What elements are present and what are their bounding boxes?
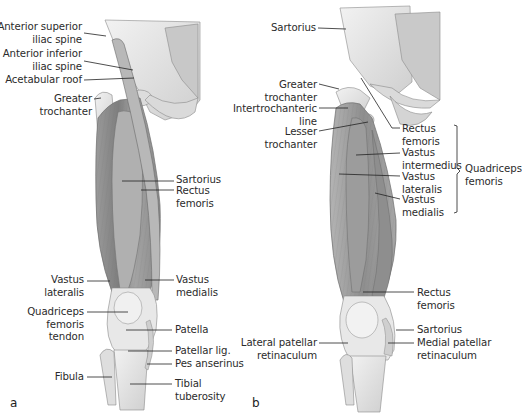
label-quadriceps-femoris-group: Quadriceps femoris — [465, 163, 522, 188]
label-lesser-trochanter: Lesser trochanter — [265, 126, 317, 151]
label-sartorius-b-bottom: Sartorius — [417, 324, 462, 337]
label-acetabular-roof: Acetabular roof — [5, 74, 82, 87]
label-sartorius-b-top: Sartorius — [271, 22, 316, 35]
label-quadriceps-femoris-tendon: Quadriceps femoris tendon — [27, 306, 84, 344]
label-rectus-femoris-a: Rectus femoris — [176, 185, 214, 210]
anatomy-figure: Anterior superior iliac spine Anterior i… — [0, 0, 522, 420]
label-vastus-lateralis-a: Vastus lateralis — [44, 274, 84, 299]
label-rectus-femoris-b-bottom: Rectus femoris — [417, 287, 455, 312]
label-greater-trochanter-a: Greater trochanter — [40, 93, 92, 118]
label-patellar-ligament: Patellar lig. — [175, 345, 231, 358]
label-anterior-superior-iliac-spine: Anterior superior iliac spine — [0, 21, 82, 46]
label-greater-trochanter-b: Greater trochanter — [265, 79, 317, 104]
label-fibula: Fibula — [55, 371, 84, 384]
label-medial-patellar-retinaculum: Medial patellar retinaculum — [417, 337, 491, 362]
label-pes-anserinus: Pes anserinus — [175, 358, 244, 371]
panel-letter-b: b — [252, 396, 260, 410]
label-rectus-femoris-b-top: Rectus femoris — [402, 123, 440, 148]
label-anterior-inferior-iliac-spine: Anterior inferior iliac spine — [3, 48, 82, 73]
label-vastus-medialis-b: Vastus medialis — [402, 194, 444, 219]
label-vastus-lateralis-b: Vastus lateralis — [402, 171, 442, 196]
label-vastus-intermedius: Vastus intermedius — [402, 147, 462, 172]
label-intertrochanteric-line: Intertrochanteric line — [233, 103, 317, 128]
label-vastus-medialis-a: Vastus medialis — [176, 274, 218, 299]
panel-letter-a: a — [10, 396, 17, 410]
label-patella: Patella — [175, 324, 208, 337]
label-tibial-tuberosity: Tibial tuberosity — [175, 378, 226, 403]
label-lateral-patellar-retinaculum: Lateral patellar retinaculum — [241, 337, 317, 362]
